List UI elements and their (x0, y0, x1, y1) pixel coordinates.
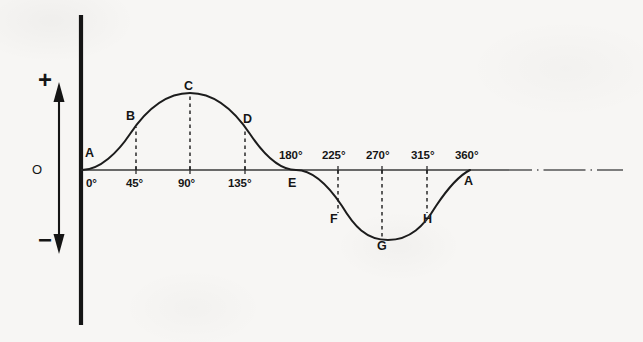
curve-point-label-a-start: A (85, 147, 94, 160)
degree-label-180: 180° (279, 150, 302, 162)
degree-label-360: 360° (455, 150, 478, 162)
sine-wave-figure: + O − 0° 45° 90° 135° 180° 225° 270° 315… (0, 0, 643, 342)
curve-point-label-g: G (377, 240, 387, 253)
degree-label-315: 315° (411, 150, 434, 162)
curve-point-label-b: B (126, 110, 135, 123)
curve-point-label-f: F (330, 213, 338, 226)
plot-canvas (0, 0, 643, 342)
degree-label-135: 135° (228, 178, 251, 190)
curve-point-label-c: C (184, 80, 193, 93)
degree-label-225: 225° (322, 150, 345, 162)
degree-label-270: 270° (366, 150, 389, 162)
minus-sign-label: − (38, 228, 52, 252)
ordinate-dashed-lines (136, 95, 427, 240)
double-headed-vertical-arrow (54, 82, 65, 254)
degree-label-45: 45° (126, 178, 143, 190)
degree-label-0: 0° (86, 178, 97, 190)
curve-point-label-e: E (288, 177, 296, 190)
sine-curve (82, 93, 470, 240)
curve-point-label-d: D (243, 113, 252, 126)
curve-point-label-h: H (423, 213, 432, 226)
plus-sign-label: + (38, 68, 52, 92)
degree-label-90: 90° (178, 178, 195, 190)
curve-point-label-a-end: A (464, 175, 473, 188)
origin-label: O (32, 163, 42, 176)
